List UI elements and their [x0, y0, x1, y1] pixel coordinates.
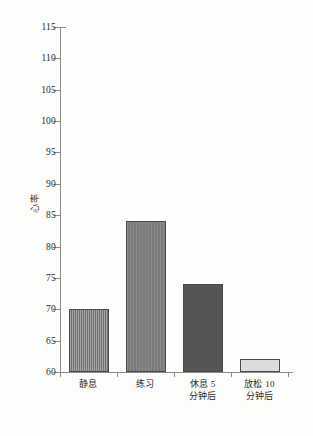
y-axis-tick-label: 80: [46, 242, 56, 252]
x-axis-tick-mark: [60, 372, 61, 377]
bar-1: [69, 309, 109, 372]
x-axis-tick-mark: [288, 372, 289, 377]
y-axis-tick-label: 100: [41, 116, 56, 126]
y-axis-tick-label: 95: [46, 147, 56, 157]
bar-2: [126, 221, 166, 372]
x-axis-line: [53, 372, 293, 373]
y-axis-tick-label: 65: [46, 336, 56, 346]
y-axis-tick-label: 110: [42, 53, 57, 63]
y-axis-tick-label: 75: [46, 273, 56, 283]
x-axis-category-label: 休息 5 分钟后: [174, 379, 231, 402]
y-axis-tick-label: 115: [42, 22, 57, 32]
y-axis-tick-label: 105: [41, 85, 56, 95]
x-axis-tick-mark: [174, 372, 175, 377]
x-axis-tick-mark: [231, 372, 232, 377]
bar-3: [183, 284, 223, 372]
bar-4: [240, 359, 280, 372]
plot-area: 6065707580859095100105110115: [60, 27, 288, 372]
y-axis-tick-label: 70: [46, 304, 56, 314]
y-axis-tick-label: 90: [46, 179, 56, 189]
bar-chart-figure: 心率 6065707580859095100105110115 静息练习休息 5…: [0, 0, 313, 436]
x-axis-tick-mark: [117, 372, 118, 377]
x-axis-category-label: 练习: [117, 379, 174, 391]
x-axis-category-label: 放松 10 分钟后: [231, 379, 288, 402]
x-axis-category-label: 静息: [60, 379, 117, 391]
y-axis-tick-label: 60: [46, 367, 56, 377]
y-axis-title: 心率: [28, 193, 41, 213]
y-axis-tick-label: 85: [46, 210, 56, 220]
